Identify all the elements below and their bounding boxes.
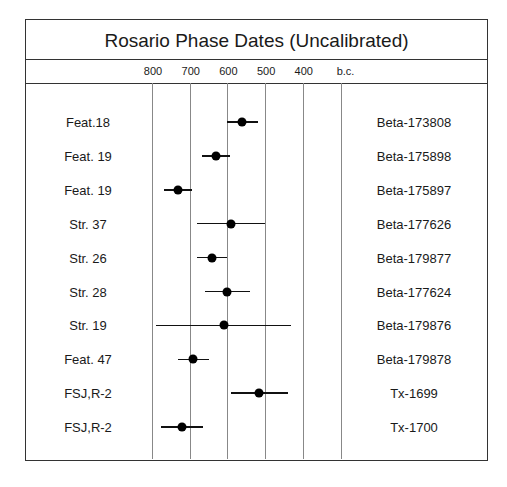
- date-point: [212, 151, 221, 160]
- date-point: [219, 321, 228, 330]
- x-tick-label: 700: [182, 65, 200, 77]
- context-label: FSJ,R-2: [64, 420, 112, 435]
- chart-title: Rosario Phase Dates (Uncalibrated): [26, 20, 487, 60]
- gridline: [152, 83, 153, 459]
- context-label: Str. 28: [69, 284, 107, 299]
- gridline: [265, 83, 266, 459]
- date-point: [255, 389, 264, 398]
- context-label: Feat. 19: [64, 182, 112, 197]
- lab-number-label: Beta-179876: [377, 318, 451, 333]
- lab-number-label: Beta-175898: [377, 148, 451, 163]
- x-tick-label: 600: [219, 65, 237, 77]
- date-point: [189, 355, 198, 364]
- context-label: FSJ,R-2: [64, 386, 112, 401]
- lab-number-label: Tx-1700: [390, 420, 438, 435]
- context-label: Str. 19: [69, 318, 107, 333]
- gridline: [303, 83, 304, 459]
- lab-number-label: Beta-177626: [377, 216, 451, 231]
- date-point: [174, 185, 183, 194]
- context-label: Str. 26: [69, 250, 107, 265]
- date-point: [178, 423, 187, 432]
- x-tick-label: 500: [257, 65, 275, 77]
- date-point: [227, 219, 236, 228]
- date-point: [208, 253, 217, 262]
- context-label: Feat. 19: [64, 148, 112, 163]
- lab-number-label: Beta-179878: [377, 352, 451, 367]
- lab-number-label: Beta-177624: [377, 284, 451, 299]
- x-tick-label: b.c.: [337, 65, 355, 77]
- context-label: Feat.18: [66, 115, 110, 130]
- gridline: [341, 83, 342, 459]
- gridline: [190, 83, 191, 459]
- date-point: [238, 118, 247, 127]
- lab-number-label: Beta-173808: [377, 115, 451, 130]
- lab-number-label: Beta-179877: [377, 250, 451, 265]
- date-point: [223, 287, 232, 296]
- context-label: Str. 37: [69, 216, 107, 231]
- lab-number-label: Beta-175897: [377, 182, 451, 197]
- x-tick-label: 400: [295, 65, 313, 77]
- x-tick-label: 800: [144, 65, 162, 77]
- gridline: [227, 83, 228, 459]
- x-axis-band: 800700600500400b.c.: [26, 60, 487, 84]
- lab-number-label: Tx-1699: [390, 386, 438, 401]
- context-label: Feat. 47: [64, 352, 112, 367]
